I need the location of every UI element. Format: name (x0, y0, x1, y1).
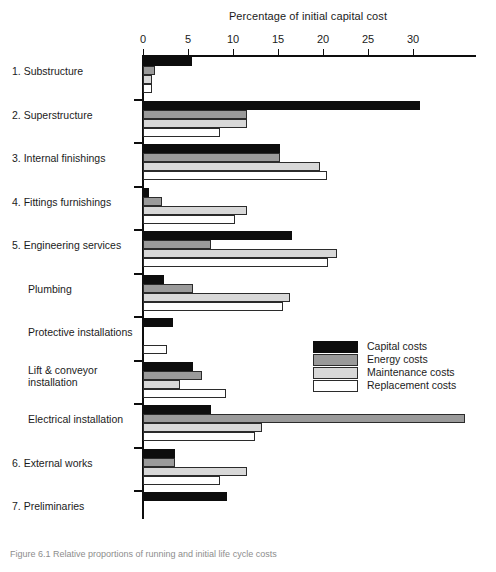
category-label: 1. Substructure (12, 65, 140, 77)
group-separator (134, 99, 144, 101)
life-cycle-cost-bar-chart: Percentage of initial capital cost 05101… (0, 0, 496, 572)
legend-item: Energy costs (313, 353, 463, 366)
chart-legend: Capital costsEnergy costsMaintenance cos… (313, 340, 463, 392)
bar (143, 240, 211, 249)
group-separator (134, 229, 144, 231)
bar (143, 162, 320, 171)
bar (143, 84, 152, 93)
category-label: 4. Fittings furnishings (12, 196, 140, 208)
bar (143, 231, 292, 240)
legend-item: Capital costs (313, 340, 463, 353)
bar (143, 197, 162, 206)
x-tick-30 (413, 49, 414, 55)
bar (143, 57, 192, 66)
x-tick-label-5: 5 (185, 33, 191, 45)
x-tick-15 (278, 49, 279, 55)
category-label: 7. Preliminaries (12, 500, 140, 512)
x-tick-label-0: 0 (140, 33, 146, 45)
group-separator (134, 403, 144, 405)
bar (143, 423, 262, 432)
category-label: 3. Internal finishings (12, 152, 140, 164)
bar (143, 153, 280, 162)
category-label: 5. Engineering services (12, 239, 140, 251)
x-tick-label-15: 15 (272, 33, 284, 45)
bar (143, 144, 280, 153)
x-tick-label-10: 10 (227, 33, 239, 45)
legend-label: Energy costs (367, 353, 428, 366)
x-tick-10 (233, 49, 234, 55)
figure-caption: Figure 6.1 Relative proportions of runni… (10, 549, 277, 559)
bar (143, 458, 175, 467)
x-tick-label-30: 30 (407, 33, 419, 45)
bar (143, 119, 247, 128)
x-tick-20 (323, 49, 324, 55)
bar (143, 467, 247, 476)
group-separator (134, 186, 144, 188)
bar (143, 128, 220, 137)
bar (143, 302, 283, 311)
category-label: Lift & conveyor installation (28, 364, 156, 388)
bar (143, 345, 167, 354)
legend-label: Replacement costs (367, 379, 456, 392)
x-tick-5 (188, 49, 189, 55)
bar (143, 215, 235, 224)
x-tick-25 (368, 49, 369, 55)
legend-swatch-energy (313, 354, 358, 366)
bar (143, 206, 247, 215)
category-label: 6. External works (12, 457, 140, 469)
bar (143, 389, 226, 398)
bar (143, 66, 155, 75)
bar (143, 101, 420, 110)
legend-swatch-maint (313, 367, 358, 379)
group-separator (134, 360, 144, 362)
plot-area: 051015202530 (143, 55, 476, 519)
category-label: Protective installations (28, 326, 156, 338)
group-separator (134, 142, 144, 144)
legend-swatch-capital (313, 341, 358, 353)
group-separator (134, 490, 144, 492)
category-label: Plumbing (28, 283, 156, 295)
bar (143, 171, 327, 180)
legend-label: Maintenance costs (367, 366, 455, 379)
legend-item: Replacement costs (313, 379, 463, 392)
x-axis-line (143, 55, 476, 57)
bar (143, 414, 465, 423)
x-tick-label-20: 20 (317, 33, 329, 45)
chart-title: Percentage of initial capital cost (143, 10, 473, 22)
bar (143, 432, 255, 441)
bar (143, 449, 175, 458)
bar (143, 476, 220, 485)
category-label: Electrical installation (28, 413, 156, 425)
bar (143, 258, 328, 267)
bar (143, 249, 337, 258)
category-label: 2. Superstructure (12, 109, 140, 121)
group-separator (134, 273, 144, 275)
legend-item: Maintenance costs (313, 366, 463, 379)
legend-swatch-replace (313, 380, 358, 392)
bar (143, 75, 152, 84)
x-tick-label-25: 25 (362, 33, 374, 45)
legend-label: Capital costs (367, 340, 427, 353)
bar (143, 188, 149, 197)
x-tick-0 (143, 49, 144, 55)
group-separator (134, 447, 144, 449)
bar (143, 492, 227, 501)
bar (143, 293, 290, 302)
bar (143, 110, 247, 119)
group-separator (134, 316, 144, 318)
